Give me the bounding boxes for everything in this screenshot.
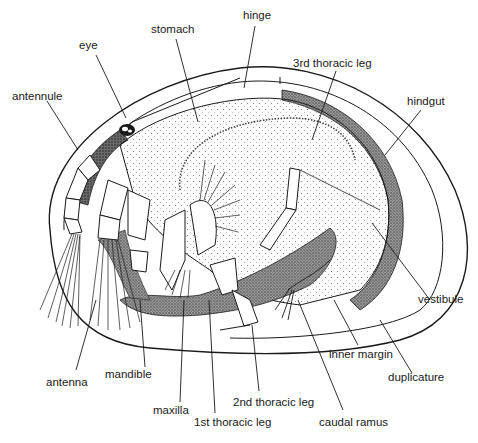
label-inner-margin: inner margin [329,349,393,361]
mandible [128,190,150,272]
label-caudal-ramus: caudal ramus [319,417,388,429]
label-antenna: antenna [46,377,88,389]
label-mandible: mandible [105,369,152,381]
label-vestibule: vestibule [418,294,463,306]
label-antennule: antennule [12,91,63,103]
label-hinge: hinge [243,10,271,22]
label-duplicature: duplicature [388,372,444,384]
label-3rd-thoracic-leg: 3rd thoracic leg [293,58,372,70]
label-eye: eye [79,40,98,52]
label-hindgut: hindgut [407,96,445,108]
antennule [64,155,100,234]
eye-icon [119,124,135,136]
label-maxilla: maxilla [153,405,189,417]
label-1st-thoracic-leg: 1st thoracic leg [194,417,271,429]
label-2nd-thoracic-leg: 2nd thoracic leg [233,397,314,409]
label-stomach: stomach [151,24,194,36]
